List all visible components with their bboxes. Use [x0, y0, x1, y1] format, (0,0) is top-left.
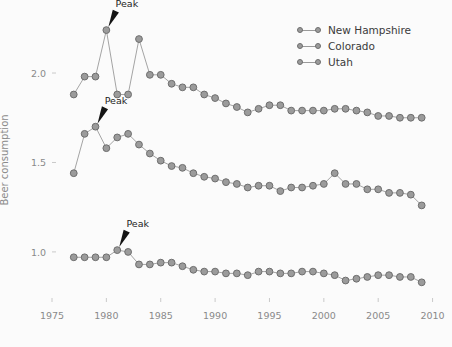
data-point: [288, 184, 295, 191]
data-point: [190, 170, 197, 177]
data-point: [353, 181, 360, 188]
data-point: [310, 107, 317, 114]
legend-label: New Hampshire: [328, 24, 411, 36]
data-point: [331, 170, 338, 177]
data-point: [146, 261, 153, 268]
data-point: [244, 272, 251, 279]
data-point: [168, 163, 175, 170]
data-point: [353, 107, 360, 114]
data-point: [168, 80, 175, 87]
data-point: [364, 274, 371, 281]
peak-annotation-label: Peak: [126, 218, 149, 229]
data-point: [233, 270, 240, 277]
data-point: [277, 270, 284, 277]
data-point: [92, 123, 99, 130]
x-axis-tick-label: 2000: [312, 310, 336, 321]
legend-label: Utah: [328, 56, 353, 68]
data-point: [81, 73, 88, 80]
peak-annotation-label: Peak: [116, 0, 139, 9]
data-point: [157, 259, 164, 266]
data-point: [92, 73, 99, 80]
data-point: [179, 263, 186, 270]
y-axis-tick-label: 2.0: [20, 68, 46, 79]
data-point: [331, 272, 338, 279]
data-point: [212, 268, 219, 275]
data-point: [310, 182, 317, 189]
data-point: [386, 113, 393, 120]
data-point: [407, 191, 414, 198]
data-point: [70, 91, 77, 98]
data-point: [125, 130, 132, 137]
data-point: [212, 95, 219, 102]
data-point: [255, 182, 262, 189]
data-point: [375, 113, 382, 120]
data-point: [407, 114, 414, 121]
data-point: [299, 184, 306, 191]
data-point: [407, 274, 414, 281]
legend-marker-icon: [296, 25, 322, 35]
data-point: [223, 270, 230, 277]
data-point: [136, 36, 143, 43]
legend-item-new-hampshire[interactable]: New Hampshire: [296, 22, 446, 38]
data-point: [375, 186, 382, 193]
x-axis-tick-label: 2005: [366, 310, 390, 321]
data-point: [397, 189, 404, 196]
data-point: [70, 170, 77, 177]
data-point: [266, 102, 273, 109]
data-point: [255, 268, 262, 275]
data-point: [310, 268, 317, 275]
data-point: [233, 181, 240, 188]
data-point: [179, 164, 186, 171]
y-axis-tick-label: 1.5: [20, 157, 46, 168]
data-point: [190, 266, 197, 273]
data-point: [255, 105, 262, 112]
chart-legend: New Hampshire Colorado Utah: [296, 22, 446, 70]
data-point: [212, 175, 219, 182]
data-point: [266, 182, 273, 189]
data-point: [364, 186, 371, 193]
data-point: [397, 274, 404, 281]
data-point: [331, 105, 338, 112]
data-point: [244, 184, 251, 191]
y-axis-tick-label: 1.0: [20, 246, 46, 257]
series-utah: [70, 247, 425, 286]
data-point: [320, 270, 327, 277]
peak-annotation-arrow: [108, 10, 119, 27]
data-point: [320, 107, 327, 114]
data-point: [223, 100, 230, 107]
data-point: [299, 107, 306, 114]
data-point: [201, 173, 208, 180]
data-point: [342, 181, 349, 188]
data-point: [223, 179, 230, 186]
data-point: [103, 254, 110, 261]
data-point: [136, 141, 143, 148]
chart-figure: Beer consumption New Hampshire Colorado …: [0, 0, 452, 347]
peak-annotation-arrow: [97, 106, 108, 123]
data-point: [233, 104, 240, 111]
x-axis-tick-label: 1990: [203, 310, 227, 321]
legend-label: Colorado: [328, 40, 375, 52]
x-axis-tick-label: 1980: [94, 310, 118, 321]
legend-marker-icon: [296, 41, 322, 51]
data-point: [136, 261, 143, 268]
legend-marker-icon: [296, 57, 322, 67]
data-point: [114, 134, 121, 141]
data-point: [353, 275, 360, 282]
data-point: [397, 114, 404, 121]
data-point: [103, 145, 110, 152]
x-axis-tick-label: 2010: [420, 310, 444, 321]
x-axis-tick-label: 1995: [257, 310, 281, 321]
data-point: [125, 249, 132, 256]
series-colorado: [70, 123, 425, 209]
data-point: [364, 109, 371, 116]
data-point: [179, 84, 186, 91]
data-point: [81, 130, 88, 137]
data-point: [157, 157, 164, 164]
data-point: [277, 188, 284, 195]
data-point: [418, 279, 425, 286]
legend-item-utah[interactable]: Utah: [296, 54, 446, 70]
legend-item-colorado[interactable]: Colorado: [296, 38, 446, 54]
data-point: [418, 202, 425, 209]
data-point: [418, 114, 425, 121]
data-point: [386, 189, 393, 196]
